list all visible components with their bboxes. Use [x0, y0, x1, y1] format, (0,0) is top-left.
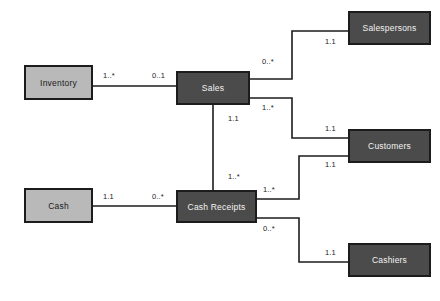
multiplicity-label-m-sales-out-sp: 0..* — [262, 57, 274, 66]
multiplicity-label-m-cr-in-cash: 0..* — [152, 192, 164, 201]
multiplicity-label-m-cust-in-sales: 1.1 — [325, 124, 336, 133]
entity-label: Sales — [202, 83, 224, 93]
entity-cashiers[interactable]: Cashiers — [348, 243, 431, 277]
multiplicity-label-m-cr-up: 1..* — [228, 172, 240, 181]
entity-salespersons[interactable]: Salespersons — [348, 11, 431, 45]
entity-cash_receipts[interactable]: Cash Receipts — [176, 190, 257, 223]
entity-customers[interactable]: Customers — [348, 129, 431, 163]
multiplicity-label-m-sales-in-inventory: 0..1 — [152, 71, 165, 80]
entity-label: Inventory — [40, 78, 77, 88]
multiplicity-label-m-sp-in: 1.1 — [325, 37, 336, 46]
entity-cash[interactable]: Cash — [24, 188, 93, 223]
entity-label: Cash — [48, 201, 69, 211]
entity-label: Cash Receipts — [188, 202, 246, 212]
entity-inventory[interactable]: Inventory — [24, 65, 93, 100]
multiplicity-label-m-inventory-out: 1..* — [103, 71, 115, 80]
multiplicity-label-m-cashier-in: 1.1 — [325, 248, 336, 257]
entity-label: Customers — [368, 141, 411, 151]
multiplicity-label-m-cash-out: 1.1 — [103, 192, 114, 201]
multiplicity-label-m-cr-out-cashier: 0..* — [263, 224, 275, 233]
multiplicity-label-m-cr-out-cust: 1..* — [263, 185, 275, 194]
entity-label: Cashiers — [372, 255, 407, 265]
entity-sales[interactable]: Sales — [176, 71, 250, 105]
multiplicity-label-m-cust-in-cr: 1.1 — [325, 160, 336, 169]
entity-label: Salespersons — [363, 23, 417, 33]
multiplicity-label-m-sales-out-cust: 1..* — [262, 103, 274, 112]
multiplicity-label-m-sales-down: 1.1 — [228, 114, 239, 123]
diagram-canvas: InventoryCashSalesCash ReceiptsSalespers… — [0, 0, 440, 301]
